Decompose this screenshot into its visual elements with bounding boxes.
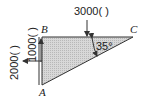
point-label-c: C xyxy=(130,23,138,35)
point-label-b: B xyxy=(41,23,48,35)
force-label-top: 3000( ) xyxy=(74,5,109,17)
point-label-a: A xyxy=(38,86,46,98)
triangle-force-diagram: 3000( ) 1000( ) 2000( ) 35° B C A xyxy=(0,0,144,99)
triangle-body xyxy=(42,37,133,85)
angle-label: 35° xyxy=(96,40,113,52)
force-label-horizontal: 2000( ) xyxy=(8,45,20,80)
force-label-vertical: 1000( ) xyxy=(26,27,38,62)
